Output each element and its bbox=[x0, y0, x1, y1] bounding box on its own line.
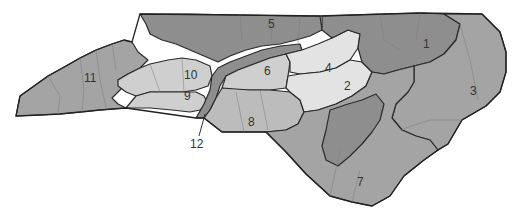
label-12-leader-line bbox=[0, 0, 522, 216]
